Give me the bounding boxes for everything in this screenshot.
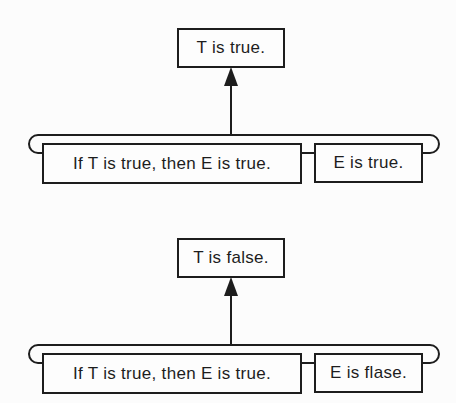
premise-box-minor: E is flase. [314,353,423,393]
argument-diagram-bottom: T is false. If T is true, then E is true… [0,210,456,403]
premise-box-minor: E is true. [314,143,423,183]
arrow-shaft [230,294,232,346]
argument-diagram-top: T is true. If T is true, then E is true.… [0,0,456,193]
page: T is true. If T is true, then E is true.… [0,0,456,403]
arrow-up-icon [224,277,238,296]
premise-box-conditional: If T is true, then E is true. [42,143,302,184]
arrow-up-icon [224,67,238,86]
arrow-shaft [230,84,232,136]
conclusion-box: T is true. [177,28,285,68]
conclusion-box: T is false. [177,238,285,278]
premise-box-conditional: If T is true, then E is true. [42,353,302,394]
